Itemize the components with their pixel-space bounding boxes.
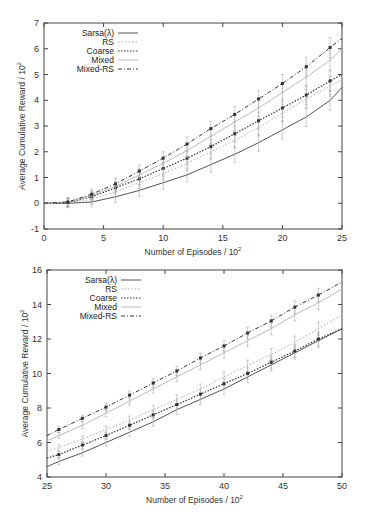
data-point-marker [233,132,236,135]
data-point-marker [209,127,212,130]
data-point-marker [223,382,226,385]
data-point-marker [281,106,284,109]
data-point-marker [175,369,178,372]
data-point-marker [152,413,155,416]
chart-bottom: 25303540455046810121416Number of Episode… [0,258,365,516]
data-point-marker [317,338,320,341]
data-point-marker [114,182,117,185]
y-axis-label: Average Cumulative Reward / 102 [19,309,30,438]
data-point-marker [209,145,212,148]
legend-label: Mixed-RS [77,64,115,74]
data-point-marker [199,356,202,359]
data-point-marker [57,453,60,456]
data-point-marker [305,65,308,68]
y-tick-label: 16 [32,265,42,275]
data-point-marker [105,406,108,409]
y-tick-label: -1 [31,224,39,234]
data-point-marker [293,306,296,309]
data-point-marker [90,193,93,196]
data-point-marker [186,143,189,146]
series-line [47,329,342,458]
y-tick-label: 10 [32,369,42,379]
x-tick-label: 5 [101,233,106,243]
data-point-marker [81,444,84,447]
data-point-marker [257,97,260,100]
x-tick-label: 10 [158,233,168,243]
data-point-marker [281,82,284,85]
data-point-marker [270,319,273,322]
data-point-marker [81,417,84,420]
x-tick-label: 20 [277,233,287,243]
y-tick-label: 2 [34,147,39,157]
x-axis-label: Number of Episodes / 102 [145,246,243,257]
series-line [47,315,342,451]
y-tick-label: 14 [32,300,42,310]
series-line [44,80,342,204]
x-tick-label: 35 [160,481,170,491]
data-point-marker [152,381,155,384]
series-line [47,282,342,436]
data-point-marker [105,434,108,437]
y-tick-label: 1 [34,173,39,183]
y-tick-label: 6 [34,44,39,54]
y-tick-label: 5 [34,70,39,80]
data-point-marker [305,94,308,97]
data-point-marker [329,46,332,49]
y-tick-label: 0 [34,198,39,208]
y-tick-label: 6 [37,438,42,448]
y-tick-label: 4 [34,95,39,105]
data-point-marker [175,403,178,406]
x-tick-label: 40 [219,481,229,491]
data-point-marker [223,344,226,347]
x-tick-label: 45 [278,481,288,491]
data-point-marker [257,119,260,122]
series-line [44,87,342,203]
data-point-marker [246,331,249,334]
x-tick-label: 0 [41,233,46,243]
data-point-marker [57,428,60,431]
data-point-marker [317,294,320,297]
x-tick-label: 15 [218,233,228,243]
data-point-marker [138,170,141,173]
x-axis-label: Number of Episodes / 102 [146,494,244,505]
x-tick-label: 30 [101,481,111,491]
data-point-marker [162,157,165,160]
series-line [44,75,342,204]
x-tick-label: 25 [337,233,347,243]
legend-label: Mixed-RS [80,311,118,321]
data-point-marker [128,394,131,397]
data-point-marker [128,424,131,427]
y-tick-label: 12 [32,334,42,344]
x-tick-label: 50 [337,481,347,491]
chart-top: 0510152025-101234567Number of Episodes /… [0,0,365,258]
data-point-marker [233,113,236,116]
y-tick-label: 8 [37,403,42,413]
data-point-marker [66,200,69,203]
x-tick-label: 25 [42,481,52,491]
y-tick-label: 3 [34,121,39,131]
y-tick-label: 7 [34,18,39,28]
data-point-marker [199,393,202,396]
data-point-marker [270,361,273,364]
y-tick-label: 4 [37,472,42,482]
data-point-marker [246,372,249,375]
y-axis-label: Average Cumulative Reward / 102 [16,61,27,190]
data-point-marker [293,350,296,353]
data-point-marker [329,79,332,82]
